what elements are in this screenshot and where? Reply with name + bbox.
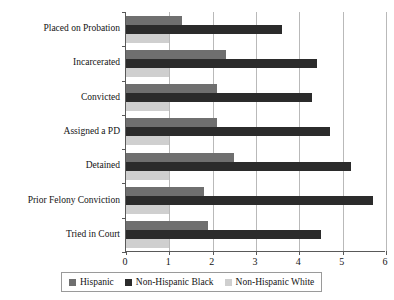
y-axis-tick-mark: [122, 252, 126, 253]
y-axis-tick-mark: [122, 183, 126, 184]
bar-group: [126, 46, 385, 80]
y-axis-tick-mark: [122, 46, 126, 47]
bar-chart: Placed on ProbationIncarceratedConvicted…: [0, 0, 394, 300]
x-axis-tick-label: 1: [156, 256, 180, 267]
bar: [126, 136, 169, 145]
x-axis-tick-mark: [386, 251, 387, 255]
y-axis-category-label: Detained: [0, 160, 120, 171]
bar: [126, 230, 321, 239]
y-axis-category-label: Placed on Probation: [0, 23, 120, 34]
legend-swatch-icon: [69, 279, 76, 286]
y-axis-category-label: Incarcerated: [0, 57, 120, 68]
legend-entry: Non-Hispanic Black: [125, 277, 214, 287]
legend-entry: Hispanic: [69, 277, 114, 287]
y-axis-category-label: Prior Felony Conviction: [0, 195, 120, 206]
bar: [126, 118, 217, 127]
bar: [126, 239, 169, 248]
bar: [126, 16, 182, 25]
plot-area: [125, 12, 385, 252]
bar-group: [126, 81, 385, 115]
bar: [126, 59, 317, 68]
bar: [126, 50, 226, 59]
legend-label: Non-Hispanic Black: [136, 277, 214, 287]
bar: [126, 221, 208, 230]
bar-group: [126, 115, 385, 149]
legend-swatch-icon: [125, 279, 132, 286]
y-axis-tick-mark: [122, 81, 126, 82]
y-axis-tick-mark: [122, 149, 126, 150]
bar: [126, 127, 330, 136]
legend-label: Hispanic: [80, 277, 114, 287]
bar-group: [126, 218, 385, 252]
bar: [126, 205, 169, 214]
x-axis-tick-label: 5: [330, 256, 354, 267]
bar: [126, 162, 351, 171]
chart-legend: HispanicNon-Hispanic BlackNon-Hispanic W…: [61, 272, 322, 292]
bar: [126, 171, 169, 180]
bar: [126, 84, 217, 93]
bar: [126, 102, 169, 111]
bar: [126, 196, 373, 205]
x-axis-tick-label: 4: [286, 256, 310, 267]
gridline: [386, 12, 387, 251]
bar-group: [126, 183, 385, 217]
y-axis-tick-mark: [122, 115, 126, 116]
bar: [126, 25, 282, 34]
x-axis-tick-label: 0: [113, 256, 137, 267]
x-axis-tick-label: 2: [200, 256, 224, 267]
bar-group: [126, 12, 385, 46]
legend-swatch-icon: [225, 279, 232, 286]
y-axis-category-label: Assigned a PD: [0, 126, 120, 137]
bar-group: [126, 149, 385, 183]
y-axis-category-label: Tried in Court: [0, 229, 120, 240]
bar: [126, 153, 234, 162]
bar: [126, 93, 312, 102]
x-axis-tick-label: 3: [243, 256, 267, 267]
bar: [126, 187, 204, 196]
y-axis-tick-mark: [122, 218, 126, 219]
x-axis-tick-label: 6: [373, 256, 394, 267]
y-axis-tick-mark: [122, 12, 126, 13]
legend-label: Non-Hispanic White: [236, 277, 315, 287]
legend-entry: Non-Hispanic White: [225, 277, 315, 287]
bar: [126, 68, 169, 77]
y-axis-category-label: Convicted: [0, 92, 120, 103]
bar: [126, 34, 169, 43]
